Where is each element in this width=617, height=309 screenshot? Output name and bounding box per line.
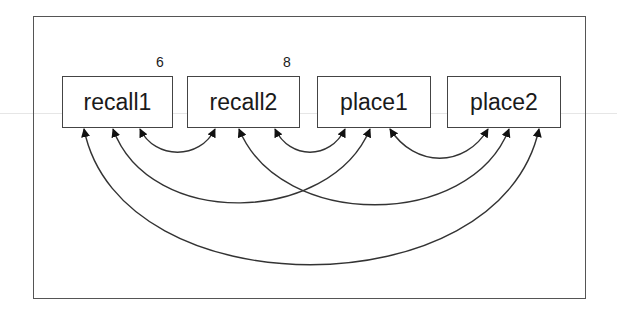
edges-layer <box>0 0 617 309</box>
edge-recall1-recall2 <box>140 129 215 152</box>
edge-recall2-place2 <box>239 129 509 205</box>
edge-recall1-place2 <box>84 129 539 265</box>
edge-recall1-place1 <box>113 129 370 203</box>
edge-place1-place2 <box>390 129 488 158</box>
edge-recall2-place1 <box>275 129 345 152</box>
